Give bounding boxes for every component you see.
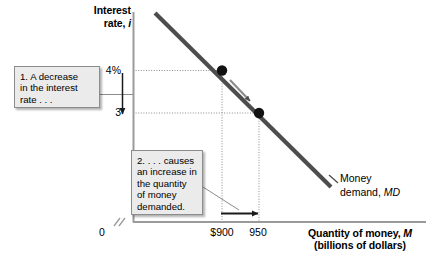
- x-axis-title-line-2: (billions of dollars): [296, 239, 424, 251]
- callout-2-line-1: 2. . . . causes: [137, 155, 197, 166]
- callout-box-quantity-increase: 2. . . . causes an increase in the quant…: [131, 150, 203, 215]
- callout-2-line-2: an increase in: [137, 166, 197, 177]
- money-demand-figure: Interest rate, i 4% 3 $900 950 0 Quantit…: [0, 0, 426, 257]
- callout-2-leader: [203, 187, 239, 210]
- curve-label-line-2-text: demand,: [340, 186, 384, 198]
- money-demand-curve-label: Money demand, MD: [340, 172, 400, 199]
- callout-2-line-5: demanded.: [137, 201, 197, 212]
- callout-2-line-3: the quantity: [137, 178, 197, 189]
- curve-label-line-1: Money: [340, 172, 400, 186]
- curve-label-line-2: demand, MD: [340, 186, 400, 200]
- origin-label: 0: [92, 227, 112, 238]
- curve-label-leader: [329, 175, 338, 183]
- x-axis-title-line-1: Quantity of money, M: [296, 227, 424, 239]
- y-axis-title-variable: i: [128, 17, 131, 29]
- callout-2-line-4: of money: [137, 189, 197, 200]
- y-axis-title-line-2: rate, i: [33, 17, 131, 30]
- x-tick-label-950: 950: [228, 227, 288, 238]
- x-axis-title-line-1-text: Quantity of money,: [308, 227, 403, 239]
- equilibrium-point-new: [254, 108, 264, 118]
- y-axis-title-line-1: Interest: [33, 4, 131, 17]
- y-axis-title: Interest rate, i: [33, 4, 131, 29]
- axis-break-mark: [114, 218, 125, 226]
- callout-1-line-3: rate . . .: [20, 94, 94, 105]
- callout-1-line-2: in the interest: [20, 82, 94, 93]
- callout-1-line-1: 1. A decrease: [20, 71, 94, 82]
- figure-graphics: [0, 0, 426, 257]
- x-axis-title-variable: M: [403, 227, 412, 239]
- callout-box-interest-rate-decrease: 1. A decrease in the interest rate . . .: [14, 66, 100, 108]
- y-axis-title-line-2-text: rate,: [104, 17, 129, 29]
- curve-label-variable: MD: [384, 186, 400, 198]
- x-axis-title: Quantity of money, M (billions of dollar…: [296, 227, 424, 251]
- y-tick-label-3: 3: [81, 107, 121, 118]
- equilibrium-point-initial: [217, 65, 227, 75]
